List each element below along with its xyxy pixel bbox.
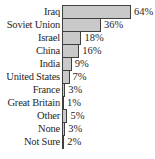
- category-label: Israel: [0, 31, 62, 45]
- chart-row: Iraq64%: [0, 5, 155, 19]
- value-label: 36%: [104, 18, 123, 32]
- category-label: Other: [0, 109, 62, 123]
- bar: [62, 96, 64, 110]
- bar: [62, 44, 79, 58]
- bar: [62, 57, 72, 71]
- value-label: 16%: [82, 44, 101, 58]
- category-label: Soviet Union: [0, 18, 62, 32]
- category-label: China: [0, 44, 62, 58]
- category-label: Iraq: [0, 5, 62, 19]
- bar: [62, 122, 65, 136]
- category-label: United States: [0, 70, 62, 84]
- chart-row: Great Britain1%: [0, 96, 155, 110]
- bar: [62, 83, 65, 97]
- bar: [62, 31, 81, 45]
- category-label: Great Britain: [0, 96, 62, 110]
- bar: [62, 5, 131, 19]
- chart-row: France3%: [0, 83, 155, 97]
- category-label: France: [0, 83, 62, 97]
- value-label: 64%: [134, 5, 153, 19]
- value-label: 5%: [70, 109, 84, 123]
- bar: [62, 109, 67, 123]
- chart-row: United States7%: [0, 70, 155, 84]
- value-label: 2%: [67, 135, 81, 149]
- chart-row: None3%: [0, 122, 155, 136]
- category-label: Not Sure: [0, 135, 62, 149]
- bar: [62, 18, 101, 32]
- value-label: 3%: [68, 122, 82, 136]
- bar: [62, 70, 70, 84]
- chart-row: Soviet Union36%: [0, 18, 155, 32]
- category-label: None: [0, 122, 62, 136]
- value-label: 7%: [73, 70, 87, 84]
- chart-row: Not Sure2%: [0, 135, 155, 149]
- value-label: 3%: [68, 83, 82, 97]
- value-label: 1%: [67, 96, 81, 110]
- value-label: 9%: [75, 57, 89, 71]
- chart-row: China16%: [0, 44, 155, 58]
- chart-row: India9%: [0, 57, 155, 71]
- category-label: India: [0, 57, 62, 71]
- value-label: 18%: [84, 31, 103, 45]
- bar: [62, 135, 64, 149]
- chart-row: Israel18%: [0, 31, 155, 45]
- bar-chart: Iraq64%Soviet Union36%Israel18%China16%I…: [0, 0, 155, 159]
- chart-row: Other5%: [0, 109, 155, 123]
